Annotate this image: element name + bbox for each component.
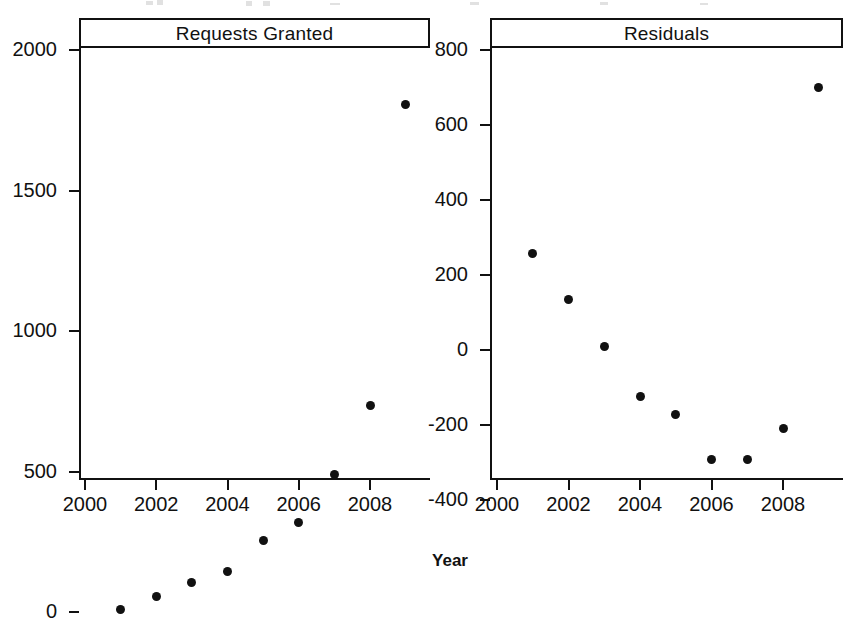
x-tick bbox=[639, 480, 641, 490]
y-tick-label: 600 bbox=[0, 114, 468, 134]
data-point bbox=[152, 592, 161, 601]
y-tick bbox=[480, 124, 490, 126]
y-tick bbox=[480, 349, 490, 351]
x-tick bbox=[568, 480, 570, 490]
y-tick-label: 400 bbox=[0, 189, 468, 209]
y-axis-line bbox=[490, 48, 492, 478]
scan-artifact bbox=[157, 0, 163, 5]
x-tick bbox=[782, 480, 784, 490]
y-tick bbox=[480, 199, 490, 201]
y-tick bbox=[480, 274, 490, 276]
data-point bbox=[528, 249, 537, 258]
y-tick bbox=[69, 611, 79, 613]
y-tick-label: 800 bbox=[0, 39, 468, 59]
scan-artifact bbox=[263, 1, 270, 6]
data-point bbox=[671, 410, 680, 419]
y-tick-label: -200 bbox=[0, 414, 468, 434]
y-tick-label: 200 bbox=[0, 264, 468, 284]
data-point bbox=[779, 424, 788, 433]
y-tick bbox=[480, 49, 490, 51]
data-point bbox=[707, 455, 716, 464]
x-axis-line bbox=[490, 478, 843, 480]
scan-artifact bbox=[600, 2, 608, 5]
x-tick-label: 2008 bbox=[738, 494, 828, 514]
data-point bbox=[564, 295, 573, 304]
scan-artifact bbox=[330, 3, 340, 5]
data-point bbox=[116, 605, 125, 614]
y-tick-label: 0 bbox=[0, 339, 468, 359]
data-point bbox=[636, 392, 645, 401]
y-tick bbox=[480, 424, 490, 426]
x-axis-title: Year bbox=[360, 552, 540, 569]
scan-artifact bbox=[246, 1, 252, 6]
data-point bbox=[743, 455, 752, 464]
panel-title-label: Residuals bbox=[624, 24, 709, 43]
panel-title-box-2: Residuals bbox=[490, 18, 843, 48]
x-tick bbox=[711, 480, 713, 490]
y-tick-label: -400 bbox=[0, 489, 468, 509]
scan-artifact bbox=[700, 3, 708, 5]
data-point bbox=[600, 342, 609, 351]
data-point bbox=[814, 83, 823, 92]
scan-artifact bbox=[146, 1, 153, 5]
scan-artifact bbox=[470, 2, 479, 5]
y-tick-label: 0 bbox=[0, 601, 57, 621]
x-tick bbox=[496, 480, 498, 490]
